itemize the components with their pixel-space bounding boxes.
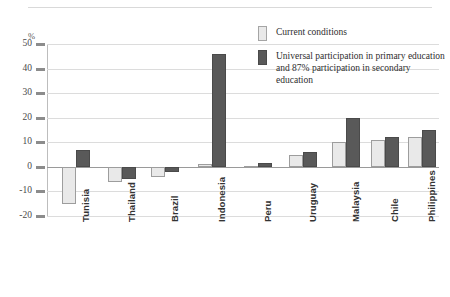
y-axis-tick-label: 40 [0, 64, 32, 74]
legend-swatch-light-icon [258, 26, 267, 41]
bar [108, 167, 122, 182]
y-axis-tick-mark [36, 68, 45, 71]
bar [76, 150, 90, 167]
top-rule-divider [28, 7, 432, 8]
gridline [47, 216, 439, 217]
x-axis-category-label: Peru [262, 200, 273, 222]
bar [408, 137, 422, 166]
legend-label: Current conditions [276, 26, 347, 38]
y-axis-tick-mark [36, 117, 45, 120]
bar [244, 166, 258, 168]
y-axis-tick-mark [36, 215, 45, 218]
x-axis-category-label: Philippines [426, 170, 437, 222]
y-axis-tick-label: 30 [0, 88, 32, 98]
x-axis-category-label: Thailand [126, 182, 137, 222]
y-axis-tick-label: 50 [0, 39, 32, 49]
legend-label: Universal participation in primary educa… [276, 50, 448, 86]
chart-figure: % Current conditions Universal participa… [0, 0, 450, 297]
legend-item: Universal participation in primary educa… [258, 50, 448, 86]
x-axis-category-label: Tunisia [80, 189, 91, 222]
x-axis-category-label: Brazil [169, 196, 180, 222]
bar [212, 54, 226, 167]
bar [332, 142, 346, 167]
x-axis-category-label: Malaysia [350, 182, 361, 222]
bar [371, 140, 385, 167]
y-axis-tick-label: 0 [0, 162, 32, 172]
x-axis-category-label: Indonesia [216, 177, 227, 222]
bar [258, 163, 272, 167]
bar [385, 137, 399, 166]
bar [62, 167, 76, 204]
legend-swatch-dark-icon [258, 50, 267, 65]
gridline [47, 118, 439, 119]
y-axis-tick-mark [36, 190, 45, 193]
legend-item: Current conditions [258, 26, 448, 41]
y-axis-line [47, 44, 48, 216]
bar [122, 167, 136, 179]
bar [165, 167, 179, 172]
y-axis-tick-label: -20 [0, 211, 32, 221]
x-axis-category-label: Uruguay [307, 183, 318, 222]
bar [422, 130, 436, 167]
bar [346, 118, 360, 167]
y-axis-tick-label: 10 [0, 137, 32, 147]
gridline [47, 191, 439, 192]
y-axis-tick-mark [36, 43, 45, 46]
y-axis-tick-mark [36, 141, 45, 144]
zero-gridline [47, 167, 439, 168]
chart-legend: Current conditions Universal participati… [258, 26, 448, 95]
bar [303, 152, 317, 167]
bar [151, 167, 165, 177]
y-axis-tick-label: 20 [0, 113, 32, 123]
y-axis-tick-mark [36, 92, 45, 95]
bar [198, 164, 212, 166]
y-axis-tick-label: -10 [0, 186, 32, 196]
y-axis-tick-mark [36, 166, 45, 169]
bar [289, 155, 303, 167]
x-axis-category-label: Chile [389, 198, 400, 222]
